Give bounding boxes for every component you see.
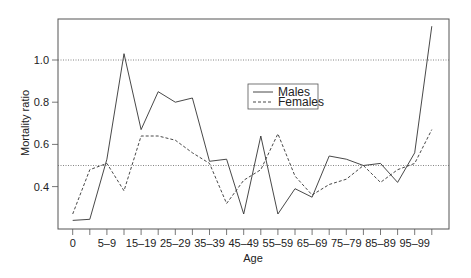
x-tick-label: 5–9	[98, 237, 116, 249]
x-tick-label: 75–79	[331, 237, 362, 249]
x-tick-label: 65–69	[297, 237, 328, 249]
x-tick-label: 95–99	[399, 237, 430, 249]
y-tick-label: 0.8	[34, 96, 49, 108]
legend-females-label: Females	[278, 95, 324, 109]
x-axis-title: Age	[243, 252, 263, 264]
series-males-line	[73, 26, 432, 220]
reference-lines	[58, 60, 449, 166]
y-tick-label: 0.4	[34, 181, 49, 193]
x-tick-label: 25–29	[160, 237, 191, 249]
y-axis: 0.40.60.81.0	[34, 54, 58, 193]
x-tick-label: 55–59	[263, 237, 294, 249]
y-tick-label: 0.6	[34, 138, 49, 150]
x-tick-label: 0	[70, 237, 76, 249]
x-tick-label: 45–49	[228, 237, 259, 249]
x-axis: 05–915–1925–2935–3945–4955–5965–6975–798…	[70, 229, 432, 249]
x-tick-label: 15–19	[126, 237, 157, 249]
y-tick-label: 1.0	[34, 54, 49, 66]
x-tick-label: 35–39	[194, 237, 225, 249]
y-axis-title: Mortality ratio	[19, 90, 31, 156]
series-females-line	[73, 130, 432, 214]
x-tick-label: 85–89	[365, 237, 396, 249]
plot-area	[58, 19, 449, 229]
mortality-ratio-chart: 0.40.60.81.0 05–915–1925–2935–3945–4955–…	[0, 0, 471, 278]
legend: Males Females	[248, 84, 324, 109]
series-lines	[73, 26, 432, 220]
